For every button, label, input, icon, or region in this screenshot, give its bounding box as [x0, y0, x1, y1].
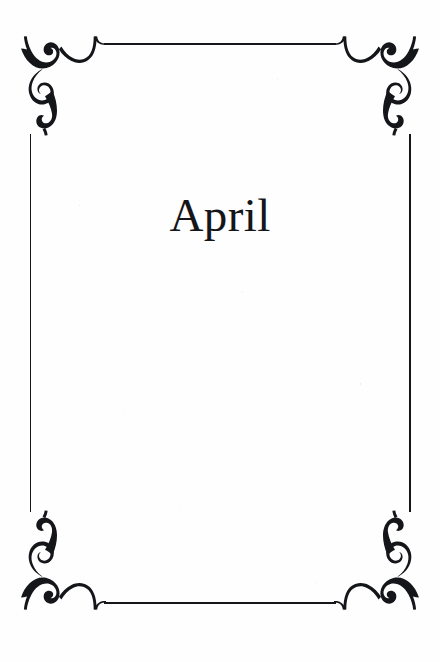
corner-flourish-top-right: [334, 36, 422, 136]
corner-flourish-bottom-right: [334, 510, 422, 610]
page-title: April: [0, 192, 440, 239]
frame-rule-right: [409, 134, 411, 512]
frame-rule-top: [104, 43, 336, 45]
frame-rule-left: [30, 134, 32, 512]
corner-flourish-bottom-left: [18, 510, 106, 610]
frame-rule-bottom: [104, 602, 336, 604]
page-canvas: April: [0, 0, 440, 662]
corner-flourish-top-left: [18, 36, 106, 136]
